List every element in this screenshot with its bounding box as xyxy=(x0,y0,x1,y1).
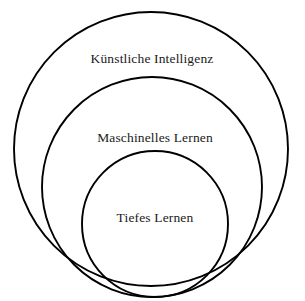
label-maschinelles-lernen: Maschinelles Lernen xyxy=(97,130,213,145)
euler-diagram-svg: Künstliche Intelligenz Maschinelles Lern… xyxy=(0,0,305,301)
label-tiefes-lernen: Tiefes Lernen xyxy=(117,210,194,225)
label-kuenstliche-intelligenz: Künstliche Intelligenz xyxy=(91,51,214,66)
nested-circles-diagram: Künstliche Intelligenz Maschinelles Lern… xyxy=(0,0,305,301)
